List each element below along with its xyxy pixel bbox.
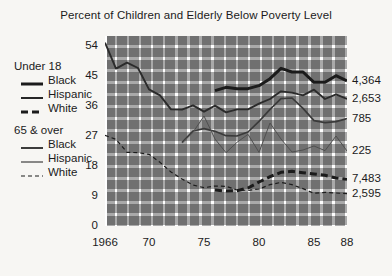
x-tick-label: 1966 (83, 236, 127, 248)
series-line (215, 171, 347, 191)
y-tick-label: 27 (58, 129, 98, 141)
legend-line-swatch-icon (21, 103, 43, 113)
series-lines (105, 36, 347, 226)
legend-line-swatch-icon (21, 167, 43, 177)
poverty-line-chart: Percent of Children and Elderly Below Po… (0, 0, 392, 276)
series-line (105, 135, 347, 193)
x-tick-label: 80 (237, 236, 281, 248)
plot-area (105, 36, 347, 226)
y-tick-label: 0 (58, 219, 98, 231)
y-tick-label: 36 (58, 99, 98, 111)
x-tick-label: 75 (182, 236, 226, 248)
series-end-label: 7,483 (352, 172, 381, 184)
x-tick-label: 70 (127, 236, 171, 248)
y-tick-label: 54 (58, 39, 98, 51)
series-end-label: 785 (352, 112, 371, 124)
series-line (215, 68, 347, 90)
y-tick-label: 9 (58, 189, 98, 201)
series-end-label: 225 (352, 144, 371, 156)
chart-title: Percent of Children and Elderly Below Po… (0, 9, 392, 21)
series-end-label: 2,653 (352, 92, 381, 104)
legend-line-swatch-icon (21, 153, 43, 163)
x-tick-label: 88 (325, 236, 369, 248)
y-tick-label: 18 (58, 159, 98, 171)
series-line (182, 98, 347, 143)
legend-line-swatch-icon (21, 89, 43, 99)
legend-line-swatch-icon (21, 75, 43, 85)
series-end-label: 4,364 (352, 74, 381, 86)
y-tick-label: 45 (58, 69, 98, 81)
legend-line-swatch-icon (21, 139, 43, 149)
series-end-label: 2,595 (352, 187, 381, 199)
